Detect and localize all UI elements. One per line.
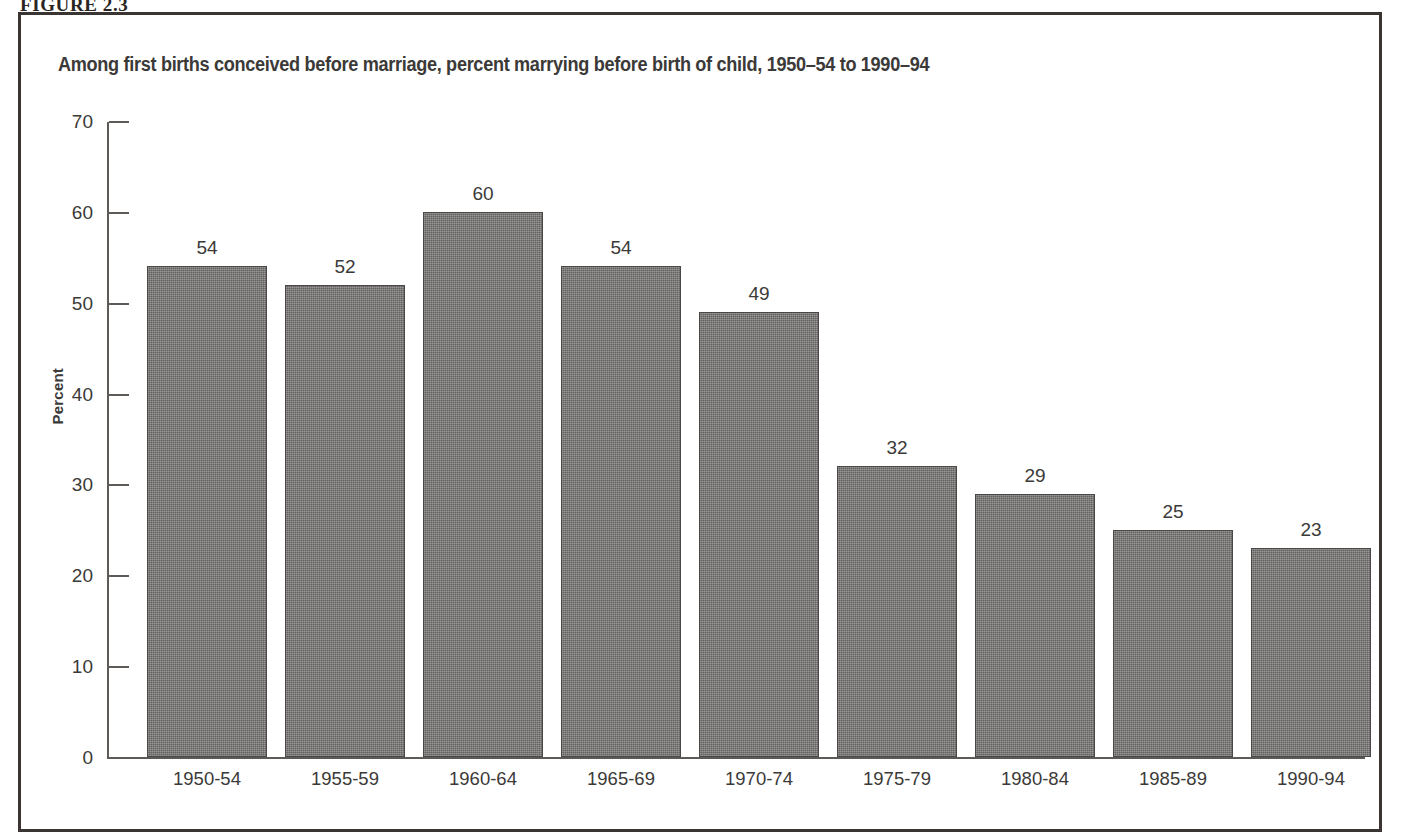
bar-value-label: 23 [1251,519,1371,541]
plot-area: 010203040506070 545260544932292523 [107,122,1365,758]
bar[interactable] [837,466,957,757]
bar[interactable] [423,212,543,757]
chart-title: Among first births conceived before marr… [58,53,929,76]
bar[interactable] [699,312,819,757]
y-axis-tick-label: 30 [33,474,93,496]
bar-value-label: 49 [699,283,819,305]
x-axis-label: 1975-79 [837,768,957,790]
x-axis-label: 1950-54 [147,768,267,790]
y-axis-tick-label: 60 [33,202,93,224]
bar-value-label: 54 [147,237,267,259]
bar-value-label: 32 [837,437,957,459]
bar-value-label: 60 [423,183,543,205]
y-axis-tick-label: 20 [33,565,93,587]
x-axis-label: 1990-94 [1251,768,1371,790]
y-axis-tick-label: 0 [33,747,93,769]
x-axis-label: 1960-64 [423,768,543,790]
bar-value-label: 29 [975,465,1095,487]
x-axis-label: 1980-84 [975,768,1095,790]
y-axis-tick-label: 50 [33,293,93,315]
bar[interactable] [1113,530,1233,757]
bar-value-label: 25 [1113,501,1233,523]
x-axis-labels: 1950-541955-591960-641965-691970-741975-… [107,768,1365,798]
bar[interactable] [975,494,1095,757]
bar-value-label: 54 [561,237,681,259]
x-axis-label: 1970-74 [699,768,819,790]
y-axis-tick-label: 40 [33,384,93,406]
x-axis-label: 1955-59 [285,768,405,790]
bar-series: 545260544932292523 [107,122,1365,758]
bar[interactable] [285,285,405,757]
x-axis-label: 1965-69 [561,768,681,790]
bar-value-label: 52 [285,256,405,278]
bar[interactable] [561,266,681,757]
y-axis-tick-label: 10 [33,656,93,678]
bar[interactable] [147,266,267,757]
y-axis-tick-label: 70 [33,111,93,133]
bar[interactable] [1251,548,1371,757]
x-axis-label: 1985-89 [1113,768,1233,790]
